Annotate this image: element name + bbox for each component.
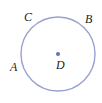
center-point-dot [56, 52, 60, 56]
point-label-c: C [24, 11, 32, 23]
circle-geometry-figure: C B A D [0, 0, 102, 103]
center-label-d: D [56, 59, 65, 71]
point-label-a: A [10, 61, 17, 73]
point-label-b: B [85, 13, 92, 25]
